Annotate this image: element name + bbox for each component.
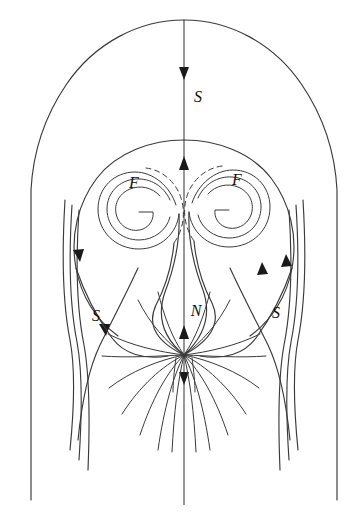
right-spiral-dashed-arc	[185, 166, 222, 241]
right-flank-line-1	[294, 200, 305, 450]
right-spiral-mid	[198, 177, 261, 238]
separatrix-left-partner	[76, 268, 168, 357]
right-spiral-inner	[208, 185, 252, 228]
label-f-right: F	[231, 171, 242, 188]
right-spiral-outer	[189, 170, 270, 247]
outer-dome-left	[31, 20, 184, 500]
magnetic-field-diagram: S F F S N S	[0, 0, 359, 532]
outer-dome-right	[184, 20, 337, 500]
figure-root: S F F S N S	[0, 0, 359, 532]
label-n-center: N	[190, 302, 203, 319]
label-s-left: S	[92, 307, 100, 324]
null-fan-left-5	[140, 355, 184, 435]
null-fan-right-5	[184, 355, 228, 435]
spine-arrow-up-inner	[179, 156, 189, 170]
separatrix-right-arrow	[257, 262, 268, 275]
left-spiral-dashed-arc	[146, 168, 183, 243]
right-fan-feeder-b	[184, 241, 215, 355]
left-spiral-inner	[116, 187, 160, 230]
separatrix-right-crossing	[230, 268, 290, 440]
spine-arrow-up-null	[179, 325, 189, 339]
label-s-right: S	[272, 304, 280, 321]
label-f-left: F	[128, 174, 139, 191]
null-fan-left-1	[108, 334, 184, 355]
left-flank-line-1	[63, 200, 74, 450]
label-s-top: S	[194, 88, 202, 105]
null-fan-right-1	[184, 334, 260, 355]
spine-arrow-down-top	[179, 67, 189, 80]
separatrix-left-crossing	[78, 268, 138, 440]
